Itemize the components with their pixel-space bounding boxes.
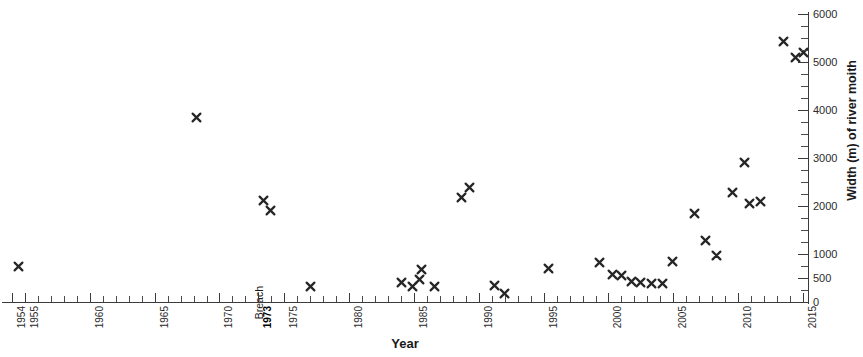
data-point [727, 187, 738, 198]
x-axis-major-tick [284, 293, 285, 302]
x-axis-tick-label: 2010 [742, 306, 753, 328]
y-axis-minor-tick [801, 182, 808, 183]
data-point [265, 205, 276, 216]
data-point [689, 208, 700, 219]
y-axis-tick-label: 1000 [813, 248, 837, 260]
x-axis-minor-tick [492, 296, 493, 302]
x-axis-tick-label: 1990 [483, 306, 494, 328]
scatter-plot-figure: Breach 195419551960196519701973197519801… [0, 0, 863, 357]
x-axis-tick-label: 1955 [29, 306, 40, 328]
x-axis-minor-tick [194, 296, 195, 302]
x-axis-minor-tick [557, 296, 558, 302]
data-point [305, 281, 316, 292]
y-axis-tick-label: 2000 [813, 200, 837, 212]
x-axis-minor-tick [51, 296, 52, 302]
x-axis-tick-label: 1975 [288, 306, 299, 328]
data-point [464, 182, 475, 193]
x-axis-minor-tick [440, 296, 441, 302]
x-axis-minor-tick [323, 296, 324, 302]
x-axis-minor-tick [168, 296, 169, 302]
x-axis-minor-tick [790, 296, 791, 302]
x-axis-minor-tick [777, 296, 778, 302]
x-axis-tick-label: 1960 [94, 306, 105, 328]
x-axis-minor-tick [232, 296, 233, 302]
x-axis-major-tick [673, 293, 674, 302]
x-axis-tick-label: 1970 [223, 306, 234, 328]
x-axis-tick-label: 2000 [612, 306, 623, 328]
x-axis-minor-tick [621, 296, 622, 302]
x-axis-major-tick [258, 293, 259, 302]
y-axis-minor-tick [801, 146, 808, 147]
data-point [456, 192, 467, 203]
y-axis-tick-label: 6000 [813, 8, 837, 20]
x-axis-major-tick [90, 293, 91, 302]
x-axis-minor-tick [116, 296, 117, 302]
x-axis-minor-tick [751, 296, 752, 302]
y-axis-minor-tick [801, 134, 808, 135]
x-axis-minor-tick [103, 296, 104, 302]
x-axis-minor-tick [570, 296, 571, 302]
x-axis-major-tick [414, 293, 415, 302]
x-axis-major-tick [25, 293, 26, 302]
x-axis-minor-tick [401, 296, 402, 302]
y-axis-minor-tick [801, 290, 808, 291]
x-axis-minor-tick [505, 296, 506, 302]
y-axis-minor-tick [801, 194, 808, 195]
x-axis-minor-tick [297, 296, 298, 302]
y-axis-line [808, 12, 809, 304]
y-axis-minor-tick [801, 26, 808, 27]
y-axis-major-tick [798, 254, 808, 255]
data-point [191, 112, 202, 123]
data-point [594, 257, 605, 268]
y-axis-major-tick [798, 158, 808, 159]
x-axis-major-tick [479, 293, 480, 302]
data-point [13, 261, 24, 272]
x-axis-tick-label: 2015 [807, 306, 818, 328]
y-axis-tick-label: 4000 [813, 104, 837, 116]
x-axis-major-tick [803, 293, 804, 302]
data-point [429, 281, 440, 292]
y-axis-tick-label: 5000 [813, 56, 837, 68]
data-point [667, 256, 678, 267]
data-point [414, 274, 425, 285]
y-axis-major-tick [798, 206, 808, 207]
x-axis-minor-tick [142, 296, 143, 302]
data-point [657, 278, 668, 289]
x-axis-title: Year [0, 336, 810, 351]
x-axis-minor-tick [310, 296, 311, 302]
x-axis-tick-label: 1965 [159, 306, 170, 328]
data-point [700, 235, 711, 246]
data-point [711, 250, 722, 261]
x-axis-minor-tick [699, 296, 700, 302]
x-axis-minor-tick [64, 296, 65, 302]
y-axis-minor-tick [801, 218, 808, 219]
y-axis-minor-tick [801, 50, 808, 51]
x-axis-minor-tick [725, 296, 726, 302]
x-axis-minor-tick [466, 296, 467, 302]
x-axis-minor-tick [362, 296, 363, 302]
y-axis-major-tick [798, 302, 808, 303]
x-axis-minor-tick [129, 296, 130, 302]
y-axis-minor-tick [801, 266, 808, 267]
x-axis-minor-tick [764, 296, 765, 302]
y-axis-minor-tick [801, 74, 808, 75]
data-point [778, 36, 789, 47]
y-axis-minor-tick [801, 170, 808, 171]
y-axis-title: Width (m) of river moith [845, 60, 859, 201]
y-axis-tick-label: 0 [813, 296, 819, 308]
x-axis-minor-tick [336, 296, 337, 302]
y-axis-major-tick [798, 14, 808, 15]
x-axis-minor-tick [660, 296, 661, 302]
x-axis-tick-label: 1985 [418, 306, 429, 328]
x-axis-minor-tick [712, 296, 713, 302]
y-axis-minor-tick [801, 242, 808, 243]
x-axis-major-tick [349, 293, 350, 302]
x-axis-minor-tick [181, 296, 182, 302]
y-axis-major-tick [798, 62, 808, 63]
y-axis-major-tick [798, 110, 808, 111]
x-axis-minor-tick [245, 296, 246, 302]
x-axis-major-tick [608, 293, 609, 302]
data-point [396, 277, 407, 288]
x-axis-minor-tick [686, 296, 687, 302]
x-axis-minor-tick [634, 296, 635, 302]
